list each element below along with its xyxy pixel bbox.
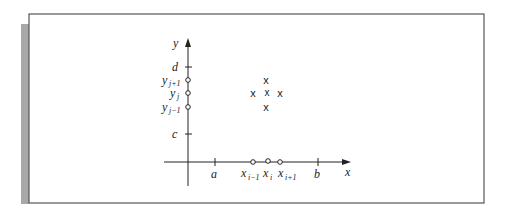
- svg-text:b: b: [314, 167, 320, 181]
- node-circle-icon: [186, 78, 191, 83]
- stencil-mark-left: x: [250, 87, 256, 99]
- y-axis-label: y: [172, 36, 179, 50]
- svg-text:y: y: [161, 100, 168, 114]
- svg-text:j−1: j−1: [168, 106, 181, 115]
- svg-text:c: c: [172, 127, 178, 141]
- svg-text:y: y: [169, 86, 176, 100]
- stencil-mark-bottom: x: [263, 101, 269, 113]
- node-circle-icon: [251, 160, 256, 165]
- svg-text:x: x: [277, 166, 284, 180]
- svg-text:y: y: [161, 73, 168, 87]
- node-circle-icon: [266, 159, 271, 164]
- svg-text:d: d: [172, 60, 179, 74]
- node-circle-icon: [278, 160, 283, 165]
- svg-text:i: i: [270, 173, 272, 182]
- node-circle-icon: [186, 91, 191, 96]
- svg-text:i−1: i−1: [248, 173, 260, 182]
- svg-text:x: x: [240, 166, 247, 180]
- svg-text:i+1: i+1: [285, 173, 297, 182]
- stencil-mark-top: x: [263, 74, 269, 86]
- svg-text:a: a: [211, 167, 217, 181]
- stencil-mark-center: x: [265, 87, 270, 98]
- node-circle-icon: [186, 105, 191, 110]
- x-axis-label: x: [344, 165, 351, 179]
- diagram-canvas: y x d c a b y j+1 y j y j−1: [0, 0, 511, 215]
- stencil-mark-right: x: [277, 87, 283, 99]
- svg-text:x: x: [262, 166, 269, 180]
- frame-shadow: [21, 24, 29, 204]
